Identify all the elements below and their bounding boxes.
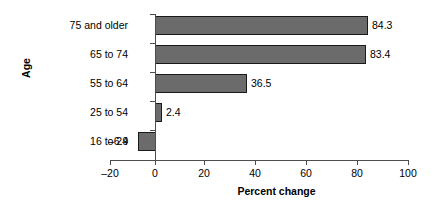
x-axis-title: Percent change: [0, 185, 443, 197]
bar-chart: Age 75 and older 65 to 74 55 to 64 25 to…: [0, 0, 443, 211]
x-axis-tick: [408, 161, 409, 165]
bar-16-to-24: [138, 132, 156, 151]
bar-25-to-54: [155, 103, 162, 122]
x-axis-tick: [110, 161, 111, 165]
bar-75-and-older: [155, 16, 368, 35]
x-tick-label-40: 40: [235, 167, 275, 179]
x-tick-label-neg20: –20: [90, 167, 130, 179]
data-label-65-to-74: 83.4: [370, 49, 390, 60]
x-axis-tick: [155, 161, 156, 165]
x-axis-tick: [204, 161, 205, 165]
bar-55-to-64: [155, 74, 247, 93]
x-tick-label-20: 20: [184, 167, 224, 179]
x-tick-label-100: 100: [388, 167, 428, 179]
category-label-25-to-54: 25 to 54: [0, 107, 128, 118]
zero-baseline: [155, 14, 156, 160]
category-label-65-to-74: 65 to 74: [0, 49, 128, 60]
x-tick-label-60: 60: [286, 167, 326, 179]
x-axis-tick: [357, 161, 358, 165]
x-tick-label-80: 80: [337, 167, 377, 179]
category-label-75-and-older: 75 and older: [0, 20, 128, 31]
x-axis-tick: [255, 161, 256, 165]
x-tick-label-0: 0: [135, 167, 175, 179]
data-label-55-to-64: 36.5: [251, 78, 271, 89]
data-label-75-and-older: 84.3: [372, 20, 392, 31]
category-label-55-to-64: 55 to 64: [0, 78, 128, 89]
data-label-25-to-54: 2.4: [166, 107, 181, 118]
x-axis-tick: [306, 161, 307, 165]
data-label-16-to-24: –6.9: [108, 136, 128, 147]
bar-65-to-74: [155, 45, 366, 64]
